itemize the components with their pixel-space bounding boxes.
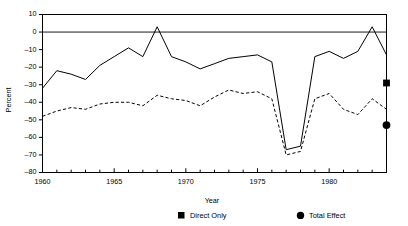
x-tick-label: 1960	[35, 177, 51, 186]
legend-circle-icon	[297, 212, 304, 219]
x-axis-title: Year	[205, 196, 220, 205]
x-axis-ticks: 19601965197019751980	[35, 168, 387, 185]
x-tick-label: 1970	[178, 177, 194, 186]
chart-root: 100–10–20–30–40–50–60–70–80 196019651970…	[0, 0, 408, 226]
legend-item-direct-only: Direct Only	[190, 211, 227, 220]
y-tick-label: –60	[25, 132, 37, 141]
end-marker-square-direct-only	[383, 80, 390, 87]
chart-legend: Direct Only Total Effect	[178, 211, 345, 220]
x-tick-label: 1965	[106, 177, 122, 186]
y-tick-label: –20	[25, 62, 37, 71]
chart-canvas: 100–10–20–30–40–50–60–70–80 196019651970…	[0, 0, 408, 226]
x-tick-label: 1980	[321, 177, 337, 186]
data-series-group	[43, 27, 387, 155]
y-tick-label: –10	[25, 45, 37, 54]
plot-frame	[43, 15, 387, 173]
x-tick-label: 1975	[250, 177, 266, 186]
y-tick-label: –40	[25, 97, 37, 106]
end-marker-circle-total-effect	[383, 121, 391, 129]
legend-item-total-effect: Total Effect	[309, 211, 345, 220]
y-tick-label: –70	[25, 150, 37, 159]
y-tick-label: –50	[25, 115, 37, 124]
y-axis-ticks: 100–10–20–30–40–50–60–70–80	[25, 9, 43, 176]
series-line-direct-only	[43, 27, 387, 150]
y-tick-label: 10	[29, 9, 37, 18]
plot-border	[43, 15, 387, 173]
y-axis-title: Percent	[4, 88, 13, 113]
series-line-total-effect	[43, 90, 387, 155]
y-tick-label: –30	[25, 80, 37, 89]
y-tick-label: –80	[25, 167, 37, 176]
y-tick-label: 0	[33, 27, 37, 36]
percent-by-year-line-chart: 100–10–20–30–40–50–60–70–80 196019651970…	[0, 0, 408, 226]
legend-square-icon	[178, 212, 185, 219]
